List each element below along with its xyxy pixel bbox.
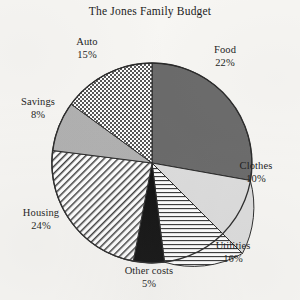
slice-label-housing: Housing 24%	[5, 207, 77, 232]
slice-label-clothes-percent: 10%	[221, 173, 291, 186]
slice-label-food-name: Food	[190, 44, 260, 57]
slice-label-auto: Auto 15%	[52, 36, 122, 61]
slice-label-other-costs-name: Other costs	[107, 265, 191, 278]
slice-label-other-costs: Other costs 5%	[107, 265, 191, 290]
slice-label-savings: Savings 8%	[3, 96, 73, 121]
slice-label-food: Food 22%	[190, 44, 260, 69]
slice-label-clothes: Clothes 10%	[221, 160, 291, 185]
slice-label-auto-percent: 15%	[52, 49, 122, 62]
slice-label-savings-percent: 8%	[3, 109, 73, 122]
slice-label-utilities-name: Utilities	[197, 240, 269, 253]
slice-label-other-costs-percent: 5%	[107, 278, 191, 291]
slice-label-food-percent: 22%	[190, 57, 260, 70]
slice-label-utilities-percent: 16%	[197, 253, 269, 266]
slice-label-clothes-name: Clothes	[221, 160, 291, 173]
slice-label-savings-name: Savings	[3, 96, 73, 109]
slice-label-auto-name: Auto	[52, 36, 122, 49]
slice-label-housing-name: Housing	[5, 207, 77, 220]
slice-label-utilities: Utilities 16%	[197, 240, 269, 265]
chart-title: The Jones Family Budget	[0, 5, 300, 17]
slice-label-housing-percent: 24%	[5, 220, 77, 233]
